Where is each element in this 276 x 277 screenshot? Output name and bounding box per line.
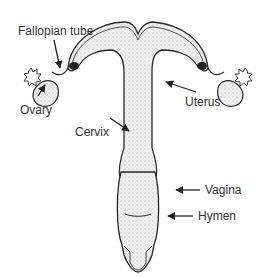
uterus-shape (68, 22, 208, 160)
fallopian-tube-arrow (54, 40, 60, 68)
uterus-arrow (166, 82, 196, 92)
label-ovary: Ovary (20, 104, 52, 116)
label-vagina: Vagina (205, 184, 241, 196)
vagina-shape (117, 172, 158, 272)
label-uterus: Uterus (185, 96, 220, 108)
label-cervix: Cervix (75, 126, 109, 138)
left-ovary-tube (24, 68, 68, 106)
anatomy-diagram: Fallopian tube Ovary Cervix Uterus Vagin… (0, 0, 276, 277)
reproductive-anatomy-drawing (0, 0, 276, 277)
label-hymen: Hymen (198, 210, 236, 222)
label-fallopian-tube: Fallopian tube (18, 25, 93, 37)
